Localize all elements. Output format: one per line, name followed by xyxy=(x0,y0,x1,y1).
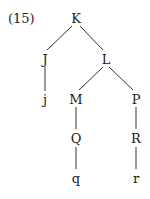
node-M: M xyxy=(69,93,82,106)
node-J: J xyxy=(42,53,47,66)
node-Q: Q xyxy=(71,132,82,145)
node-K: K xyxy=(71,12,81,25)
edge-K-L xyxy=(80,26,103,50)
edge-L-M xyxy=(79,67,103,90)
node-L: L xyxy=(102,53,111,66)
node-r: r xyxy=(133,172,139,185)
edge-L-P xyxy=(109,67,133,90)
node-P: P xyxy=(132,93,141,106)
node-R: R xyxy=(131,132,141,145)
node-q: q xyxy=(72,172,80,185)
edge-K-J xyxy=(47,26,72,50)
node-j: j xyxy=(43,93,47,106)
